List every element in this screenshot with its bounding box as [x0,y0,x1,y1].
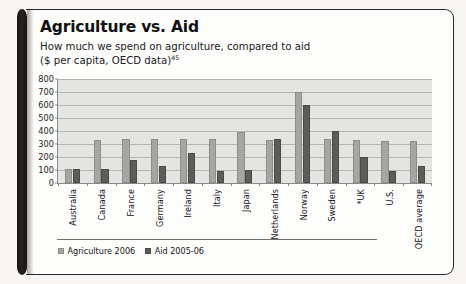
x-axis-category-label: Japan [241,189,251,212]
bar [122,139,129,183]
bar [237,132,244,183]
x-axis-tick-mark [259,183,260,186]
bar [295,92,302,183]
chart-title: Agriculture vs. Aid [40,18,199,36]
bar-group: OECD average [403,79,432,183]
chart-subtitle: How much we spend on agriculture, compar… [40,40,370,67]
x-axis-category-label: OECD average [414,189,424,249]
x-axis-tick-mark [374,183,375,186]
bar [418,166,425,183]
legend-label-agriculture: Agriculture 2006 [68,246,136,256]
x-axis-tick-mark [87,183,88,186]
bar-group: France [116,79,145,183]
x-axis-category-label: France [126,189,136,217]
bar-group: Sweden [317,79,346,183]
y-axis-tick-label: 200 [14,152,54,162]
bar [130,160,137,183]
bar-group: Japan [231,79,260,183]
bar [209,139,216,183]
x-axis-category-label: Norway [299,189,309,220]
bar [274,139,281,183]
x-axis-tick-mark [346,183,347,186]
bar [65,169,72,183]
bar [245,170,252,183]
legend-item-aid: Aid 2005-06 [145,246,204,256]
bar-group: Italy [202,79,231,183]
bar [151,139,158,183]
legend-swatch-agriculture-icon [58,248,64,254]
y-axis-tick-label: 500 [14,113,54,123]
x-axis-tick-mark [58,183,59,186]
bar [159,166,166,183]
bar-group: U.S. [374,79,403,183]
chart-subtitle-line2: ($ per capita, OECD data) [40,55,171,66]
bar-group: Netherlands [259,79,288,183]
bar-group: Germany [144,79,173,183]
x-axis-tick-mark [317,183,318,186]
x-axis-category-label: Australia [68,189,78,226]
x-axis-tick-mark [144,183,145,186]
bar [188,153,195,183]
bar-group: Ireland [173,79,202,183]
bar [381,141,388,183]
bar [353,140,360,183]
chart-subtitle-line1: How much we spend on agriculture, compar… [40,41,310,52]
bar [73,169,80,183]
bar [266,140,273,183]
x-axis-category-label: Netherlands [270,189,280,239]
x-axis-tick-mark [403,183,404,186]
bar [217,171,224,183]
x-axis-tick-mark [288,183,289,186]
x-axis-category-label: U.S. [385,189,395,206]
x-axis-tick-mark [231,183,232,186]
bar [332,131,339,183]
bar [303,105,310,183]
x-axis-tick-mark [173,183,174,186]
x-axis-category-label: Ireland [183,189,193,218]
bar [180,139,187,183]
x-axis-category-label: Sweden [327,189,337,222]
legend-label-aid: Aid 2005-06 [155,246,204,256]
footnote-marker: 45 [171,53,179,60]
chart-legend: Agriculture 2006 Aid 2005-06 [58,246,204,256]
x-axis-tick-mark [116,183,117,186]
y-axis-tick-label: 600 [14,100,54,110]
bar-group: Australia [58,79,87,183]
x-axis-tick-mark [202,183,203,186]
x-axis-category-label: Germany [155,189,165,227]
x-axis-tick-mark [431,183,432,186]
bar [410,141,417,183]
y-axis-tick-label: 400 [14,126,54,136]
y-axis-tick-label: 800 [14,74,54,84]
y-axis-tick-label: 100 [14,165,54,175]
bar [360,157,367,183]
legend-swatch-aid-icon [145,248,151,254]
bar [389,171,396,183]
bar-group: *UK [346,79,375,183]
x-axis-category-label: Canada [97,189,107,220]
bar [94,140,101,183]
y-axis-tick-label: 700 [14,87,54,97]
bar-group: Canada [87,79,116,183]
legend-item-agriculture: Agriculture 2006 [58,246,135,256]
bar [101,169,108,183]
y-axis-tick-label: 300 [14,139,54,149]
bar [324,139,331,183]
x-axis-category-label: Italy [212,189,222,207]
y-axis-tick-label: 0 [14,178,54,188]
x-axis-category-label: *UK [356,189,366,205]
bar-group: Norway [288,79,317,183]
plot-area: 0100200300400500600700800AustraliaCanada… [57,79,432,184]
category-label-baseline [57,239,377,240]
